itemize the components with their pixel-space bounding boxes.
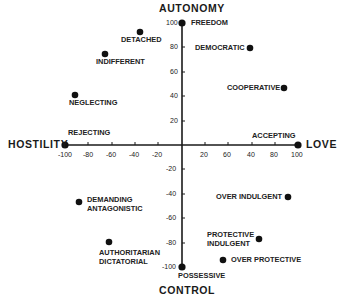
x-tick-label: 40: [247, 151, 255, 158]
point-label-democratic: DEMOCRATIC: [195, 44, 245, 53]
axis-title-right: LOVE: [306, 138, 337, 150]
point-label-possessive: POSSESSIVE: [178, 272, 225, 281]
x-tick-label: -20: [152, 151, 162, 158]
axis-title-left: HOSTILITY: [8, 138, 68, 150]
y-tick-label: -40: [166, 190, 176, 197]
label-line-2: ANTAGONISTIC: [87, 205, 143, 214]
point-label-over-indulgent: OVER INDULGENT: [216, 193, 282, 202]
point-label-accepting: ACCEPTING: [252, 132, 296, 141]
y-tick-label: -60: [166, 214, 176, 221]
point-label-detached: DETACHED: [121, 36, 162, 45]
point-label-cooperative: COOPERATIVE: [227, 84, 280, 93]
point-label-freedom: FREEDOM: [191, 19, 228, 28]
y-tick-label: -20: [166, 165, 176, 172]
x-tick-label: -80: [83, 151, 93, 158]
point-label-rejecting: REJECTING: [68, 129, 110, 138]
y-tick-label: -100: [162, 263, 176, 270]
point-label-over-protective: OVER PROTECTIVE: [231, 256, 301, 265]
point-label-indifferent: INDIFFERENT: [96, 58, 145, 67]
label-line-2: DICTATORIAL: [99, 258, 160, 267]
x-tick-label: -100: [58, 151, 72, 158]
y-tick-label: 40: [170, 92, 178, 99]
x-tick-label: 80: [270, 151, 278, 158]
y-tick-label: 80: [170, 43, 178, 50]
axis-title-top: AUTONOMY: [159, 2, 225, 14]
y-tick-label: 100: [166, 19, 178, 26]
point-label-authoritarian-dictatorial: AUTHORITARIAN DICTATORIAL: [99, 249, 160, 266]
point-label-demanding-antagonistic: DEMANDING ANTAGONISTIC: [87, 196, 143, 213]
x-tick-label: 100: [291, 151, 303, 158]
x-tick-label: 60: [223, 151, 231, 158]
x-tick-label: 20: [200, 151, 208, 158]
point-label-neglecting: NEGLECTING: [69, 99, 117, 108]
axis-title-bottom: CONTROL: [159, 284, 215, 296]
x-tick-label: -40: [129, 151, 139, 158]
y-tick-label: 60: [170, 68, 178, 75]
point-label-protective-indulgent: PROTECTIVE INDULGENT: [207, 231, 254, 248]
y-tick-label: 20: [170, 117, 178, 124]
x-tick-label: -60: [106, 151, 116, 158]
label-line-2: INDULGENT: [207, 240, 254, 249]
y-tick-label: -80: [166, 239, 176, 246]
